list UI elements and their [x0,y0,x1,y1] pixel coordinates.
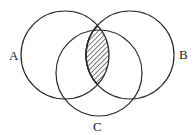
label-c: C [93,119,102,134]
label-b: B [179,47,188,62]
label-a: A [9,48,19,63]
venn-diagram: A B C [0,0,196,135]
